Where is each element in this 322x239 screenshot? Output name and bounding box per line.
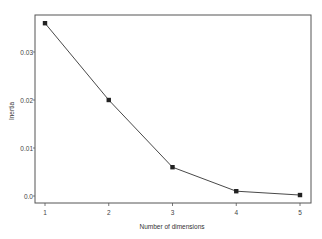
x-tick-label: 5 bbox=[298, 209, 302, 216]
y-tick-label: 0.0 bbox=[24, 193, 33, 200]
x-axis-label: Number of dimensions bbox=[139, 223, 205, 230]
x-tick-label: 1 bbox=[43, 209, 47, 216]
x-tick-label: 2 bbox=[107, 209, 111, 216]
x-tick-label: 4 bbox=[234, 209, 238, 216]
y-axis-ticks: 0.00.010.020.03 bbox=[20, 49, 35, 200]
y-tick-label: 0.02 bbox=[20, 97, 33, 104]
data-point-marker bbox=[43, 21, 47, 25]
y-tick-label: 0.01 bbox=[20, 145, 33, 152]
plot-frame bbox=[35, 15, 311, 203]
x-tick-label: 3 bbox=[171, 209, 175, 216]
data-point-marker bbox=[298, 193, 302, 197]
data-point-marker bbox=[234, 189, 238, 193]
scree-plot: 12345 0.00.010.020.03 Number of dimensio… bbox=[0, 0, 322, 239]
y-axis-label: Inertia bbox=[8, 102, 15, 120]
x-axis-ticks: 12345 bbox=[43, 203, 302, 216]
data-point-marker bbox=[170, 165, 174, 169]
data-point-markers bbox=[43, 21, 302, 197]
data-point-marker bbox=[107, 98, 111, 102]
y-tick-label: 0.03 bbox=[20, 49, 33, 56]
